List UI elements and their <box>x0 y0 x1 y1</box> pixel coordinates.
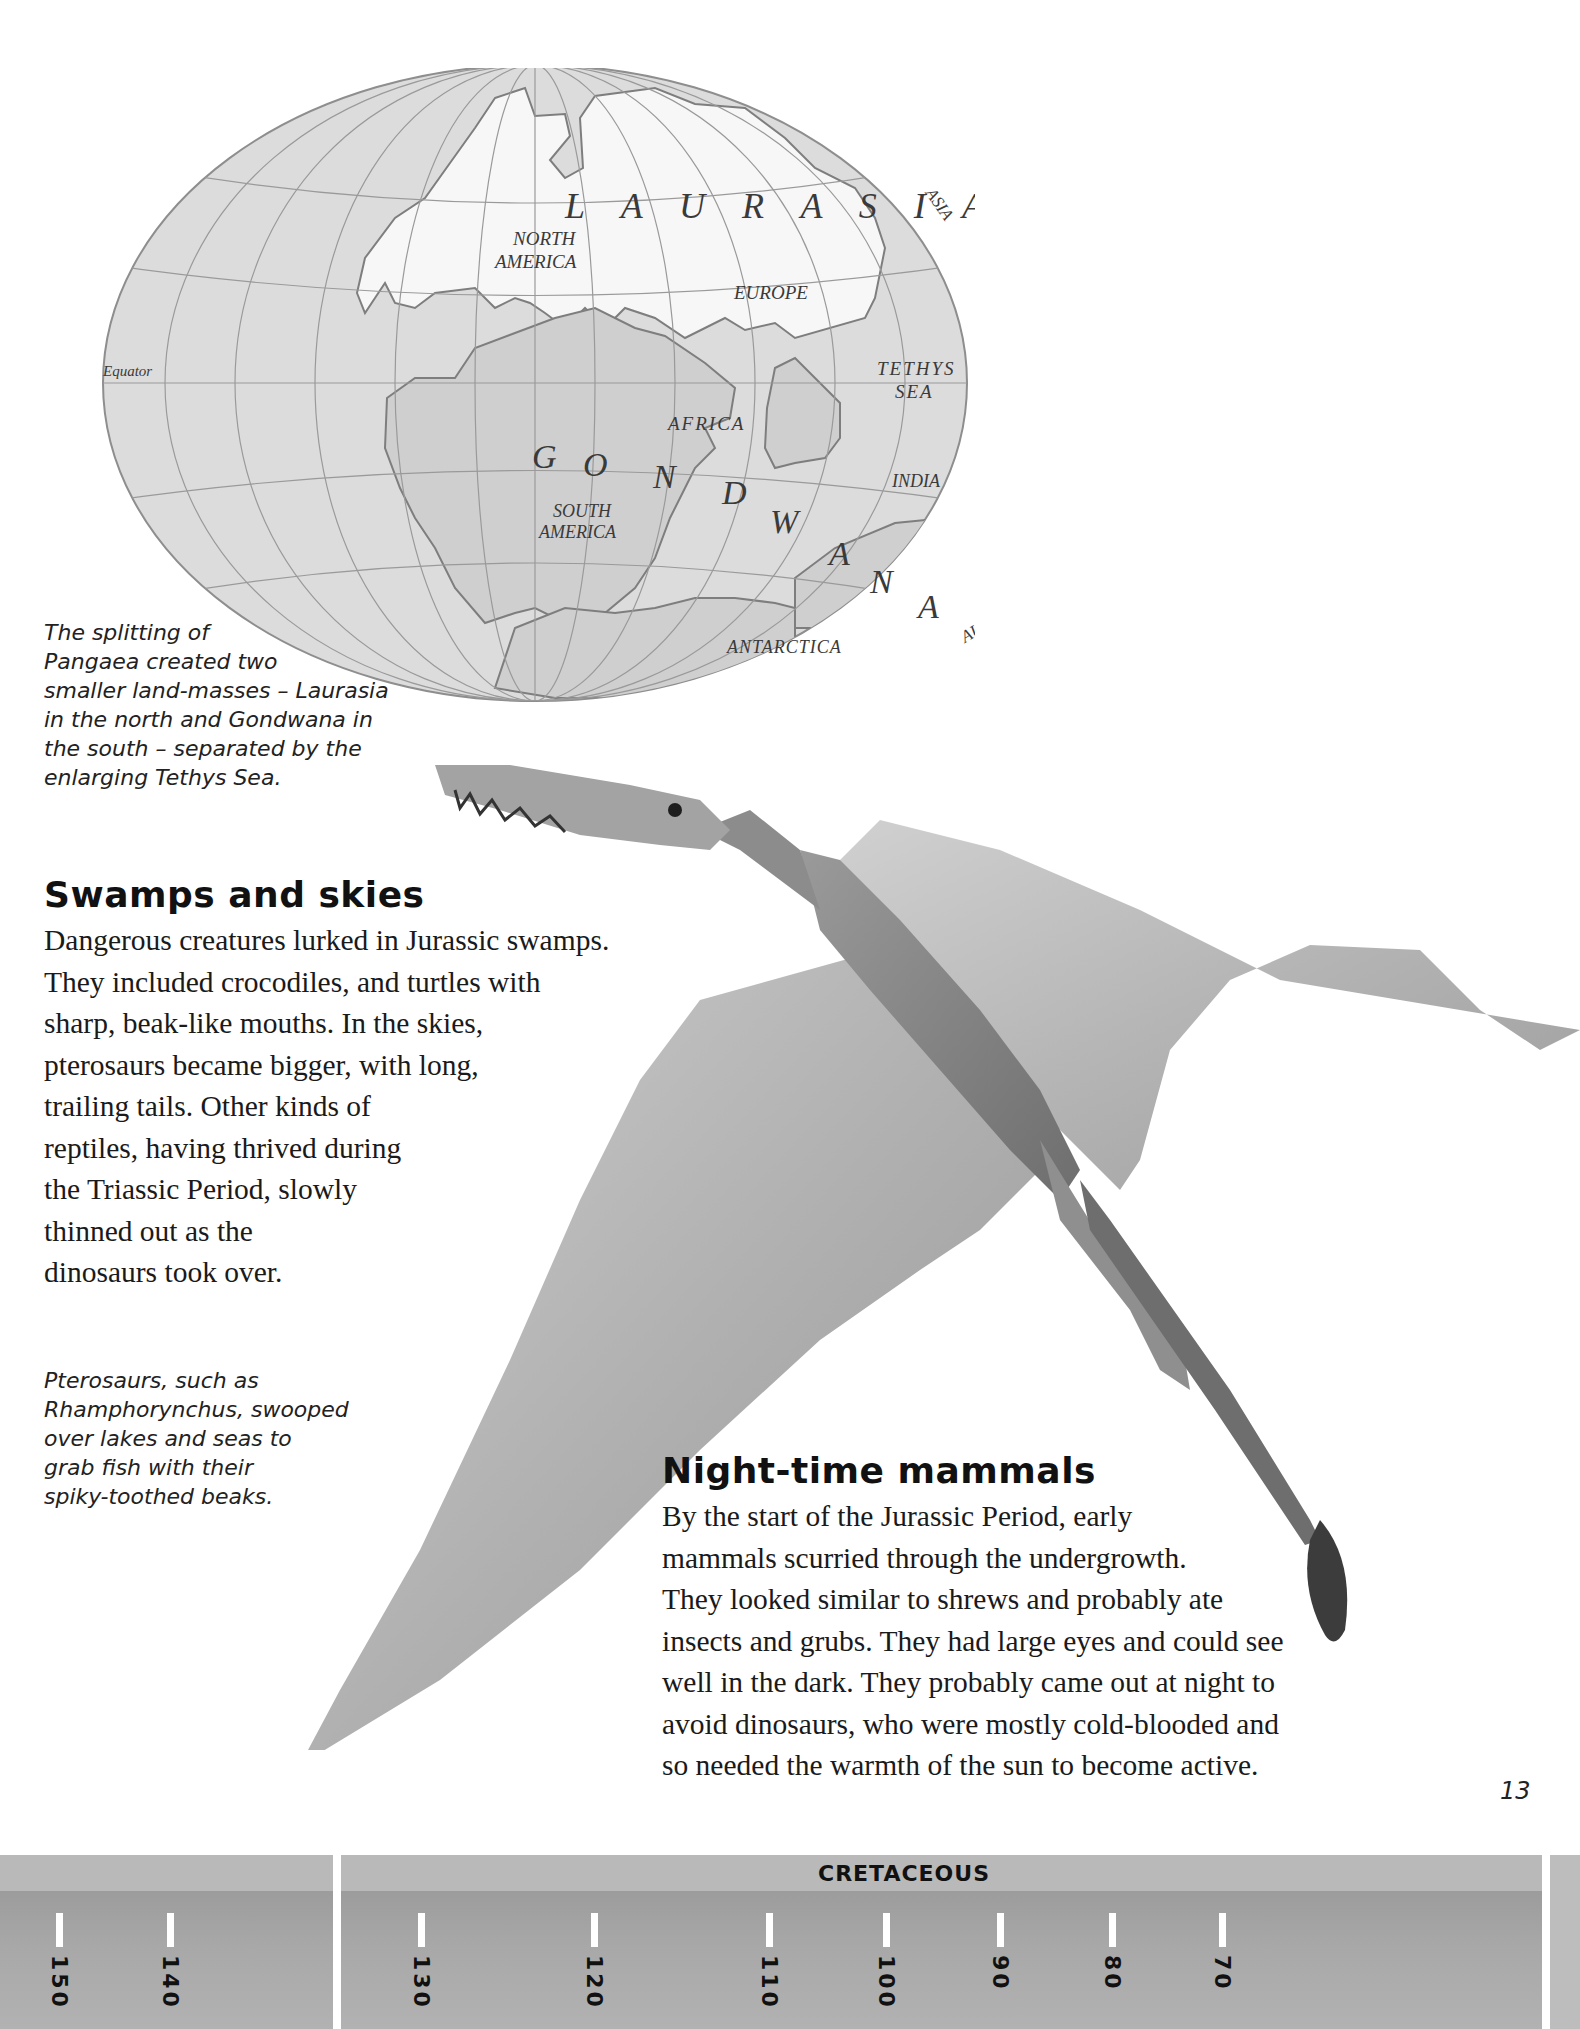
antarctica-label: ANTARCTICA <box>726 637 842 657</box>
tick-130 <box>418 1913 425 1947</box>
tick-140 <box>167 1913 174 1947</box>
tick-150 <box>56 1913 63 1947</box>
tethys-label-1: TETHYS <box>877 358 956 379</box>
tick-120 <box>591 1913 598 1947</box>
north-america-label-1: NORTH <box>512 228 577 249</box>
gondwana-letter: A <box>916 588 939 625</box>
tick-label-90: 90 <box>988 1955 1013 1992</box>
gondwana-letter: N <box>869 563 895 600</box>
mammals-body: By the start of the Jurassic Period, ear… <box>662 1496 1422 1787</box>
pangaea-map: Equator L A U R A S I A NORTH AMERICA EU… <box>95 68 975 708</box>
swamps-heading: Swamps and skies <box>44 874 425 915</box>
page-number: 13 <box>1500 1777 1531 1805</box>
africa-label: AFRICA <box>666 413 745 434</box>
gondwana-letter: G <box>532 438 557 475</box>
south-america-label-2: AMERICA <box>538 522 617 542</box>
era-label-cretaceous: CRETACEOUS <box>818 1861 990 1886</box>
timeline-panel-jurassic: 150 140 <box>0 1855 333 2029</box>
pterosaur-tail <box>1080 1180 1320 1545</box>
map-illustration: Equator L A U R A S I A NORTH AMERICA EU… <box>95 68 975 708</box>
swamps-body: Dangerous creatures lurked in Jurassic s… <box>44 920 764 1294</box>
timeline-panel-cretaceous: CRETACEOUS 130 120 110 100 90 80 70 <box>341 1855 1542 2029</box>
timeline-scene <box>341 1891 1542 2029</box>
tick-100 <box>883 1913 890 1947</box>
tick-label-130: 130 <box>409 1955 434 2010</box>
tick-70 <box>1219 1913 1226 1947</box>
equator-label: Equator <box>102 363 152 379</box>
tick-label-140: 140 <box>158 1955 183 2010</box>
mammals-heading: Night-time mammals <box>662 1450 1096 1491</box>
tethys-label-2: SEA <box>895 381 934 402</box>
north-america-label-2: AMERICA <box>493 251 577 272</box>
gondwana-letter: O <box>583 446 608 483</box>
gondwana-letter: D <box>721 474 747 511</box>
geologic-timeline: 150 140 CRETACEOUS 130 120 110 100 90 80… <box>0 1855 1580 2029</box>
gondwana-letter: A <box>827 535 850 572</box>
gondwana-letter: N <box>652 458 678 495</box>
timeline-band <box>0 1855 333 1891</box>
pterosaur-head <box>435 765 730 850</box>
gondwana-letter: W <box>770 503 801 540</box>
south-america-label-1: SOUTH <box>553 501 612 521</box>
tick-label-80: 80 <box>1100 1955 1125 1992</box>
tick-label-100: 100 <box>874 1955 899 2010</box>
tick-110 <box>766 1913 773 1947</box>
timeline-panel-next <box>1550 1855 1580 2029</box>
australia-label: AUSTRALIA <box>957 586 975 647</box>
tick-label-70: 70 <box>1210 1955 1235 1992</box>
india-label: INDIA <box>891 471 941 491</box>
europe-label: EUROPE <box>733 282 808 303</box>
tick-label-120: 120 <box>582 1955 607 2010</box>
laurasia-label: L A U R A S I A <box>564 186 975 226</box>
pterosaur-eye <box>668 803 682 817</box>
tick-label-110: 110 <box>757 1955 782 2010</box>
tick-label-150: 150 <box>47 1955 72 2010</box>
tick-80 <box>1109 1913 1116 1947</box>
tick-90 <box>997 1913 1004 1947</box>
pterosaur-caption: Pterosaurs, such as Rhamphorynchus, swoo… <box>44 1366 404 1511</box>
